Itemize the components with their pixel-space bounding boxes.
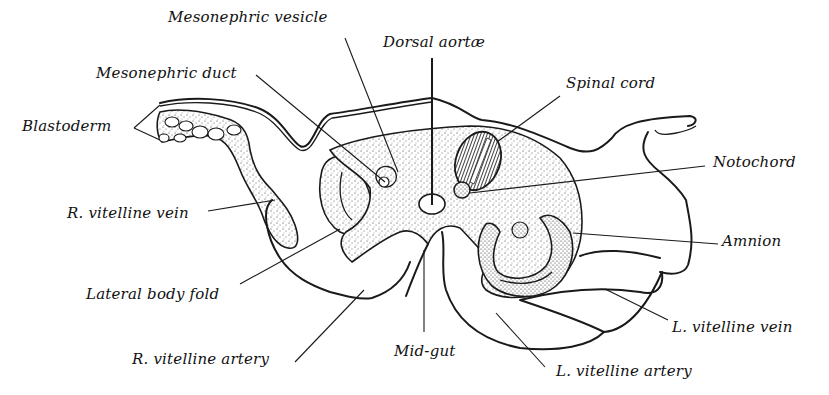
label-amnion: Amnion <box>722 234 781 249</box>
label-lateral-body-fold: Lateral body fold <box>86 287 219 302</box>
leader-line-notochord <box>470 166 705 193</box>
leader-line-r-vitelline-artery <box>295 290 364 362</box>
label-r-vitelline-vein: R. vitelline vein <box>67 206 189 221</box>
label-dorsal-aortae: Dorsal aortæ <box>383 35 485 50</box>
leader-line-blastoderm-upper <box>134 105 160 128</box>
label-mid-gut: Mid-gut <box>394 344 456 359</box>
leader-line-lateral-body-fold <box>240 229 340 284</box>
label-notochord: Notochord <box>713 155 796 170</box>
leader-line-amnion <box>573 233 718 244</box>
label-blastoderm: Blastoderm <box>22 119 111 134</box>
label-r-vitelline-artery: R. vitelline artery <box>132 352 269 367</box>
leader-line-blastoderm-lower <box>134 128 160 140</box>
label-mesonephric-vesicle: Mesonephric vesicle <box>168 10 328 25</box>
embryo-cross-section-figure: Mesonephric vesicle Dorsal aortæ Mesonep… <box>0 0 829 395</box>
label-l-vitelline-vein: L. vitelline vein <box>672 320 793 335</box>
leader-line-mesonephric-vesicle <box>345 38 398 172</box>
leader-line-l-vitelline-vein <box>605 289 668 320</box>
leader-line-l-vitelline-artery <box>496 313 545 367</box>
label-mesonephric-duct: Mesonephric duct <box>96 66 237 81</box>
label-spinal-cord: Spinal cord <box>566 76 655 91</box>
leader-line-spinal-cord <box>497 96 560 142</box>
leader-line-r-vitelline-vein <box>208 200 275 211</box>
label-l-vitelline-artery: L. vitelline artery <box>556 364 692 379</box>
